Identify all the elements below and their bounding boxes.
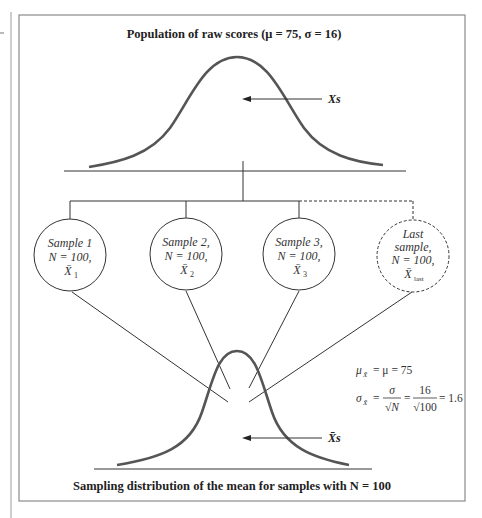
svg-text:Sample 3,: Sample 3,: [275, 235, 322, 249]
sd-formula: σ X̄ = σ √N = 16 √100 = 1.6: [356, 384, 463, 413]
svg-text:N = 100,: N = 100,: [390, 253, 434, 267]
converge-line-2: [186, 291, 230, 389]
svg-text:=: =: [404, 392, 411, 404]
sampling-distribution-diagram: Population of raw scores (μ = 75, σ = 16…: [0, 0, 482, 518]
svg-text:X̄: X̄: [63, 264, 72, 278]
svg-text:= 1.6: = 1.6: [439, 392, 463, 404]
population-arrow-label: Xs: [327, 92, 341, 106]
converge-line-4: [249, 292, 412, 402]
sample-3-node: Sample 3, N = 100, X̄ 3: [263, 218, 335, 290]
svg-text:N = 100,: N = 100,: [47, 250, 91, 264]
svg-text:16: 16: [419, 384, 431, 396]
svg-text:σ: σ: [389, 384, 396, 396]
svg-text:2: 2: [190, 270, 194, 279]
svg-text:μ: μ: [355, 364, 362, 377]
svg-text:=: =: [373, 392, 380, 404]
svg-text:X̄: X̄: [292, 263, 301, 277]
svg-text:3: 3: [303, 270, 307, 279]
sample-1-node: Sample 1 N = 100, X̄ 1: [34, 219, 106, 291]
svg-text:X̄: X̄: [179, 263, 188, 277]
svg-text:= μ = 75: = μ = 75: [373, 364, 413, 377]
population-title: Population of raw scores (μ = 75, σ = 16…: [127, 27, 342, 41]
svg-text:Sample 1: Sample 1: [48, 236, 92, 250]
sample-last-node: Last sample, N = 100, X̄ last: [377, 220, 449, 292]
svg-text:√N: √N: [385, 401, 400, 413]
svg-text:1: 1: [74, 271, 78, 280]
svg-text:N = 100,: N = 100,: [276, 249, 320, 263]
sampling-distribution-curve: [117, 351, 349, 465]
svg-text:X̄: X̄: [362, 371, 368, 379]
population-curve: [89, 57, 383, 167]
converge-line-1: [72, 292, 228, 402]
arrow-head-icon: [242, 96, 251, 102]
svg-text:Sample 2,: Sample 2,: [162, 235, 209, 249]
sample-2-node: Sample 2, N = 100, X̄ 2: [150, 218, 222, 290]
mean-formula: μ X̄ = μ = 75: [355, 364, 413, 379]
arrow-head-icon: [242, 435, 251, 441]
sampling-distribution-title: Sampling distribution of the mean for sa…: [73, 479, 391, 493]
svg-text:N = 100,: N = 100,: [163, 249, 207, 263]
svg-text:X̄: X̄: [403, 267, 412, 281]
svg-text:σ: σ: [356, 392, 363, 404]
svg-text:√100: √100: [413, 401, 437, 413]
svg-text:X̄: X̄: [362, 399, 368, 407]
svg-text:Last: Last: [402, 227, 424, 241]
sampling-arrow-label: X̄s: [327, 431, 341, 445]
svg-text:last: last: [414, 275, 424, 283]
svg-text:sample,: sample,: [395, 240, 432, 254]
